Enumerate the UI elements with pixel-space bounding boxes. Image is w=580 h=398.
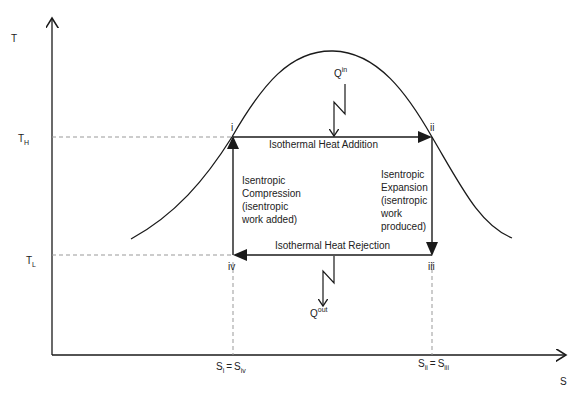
svg-text:(isentropic: (isentropic	[381, 195, 427, 206]
svg-text:Isentropic: Isentropic	[242, 175, 285, 186]
state-i-label: i	[231, 122, 233, 133]
q-in-label: Qin	[334, 66, 347, 79]
q-out-label: Qout	[310, 306, 328, 319]
svg-text:Expansion: Expansion	[381, 182, 428, 193]
state-iv-label: iv	[228, 261, 235, 272]
x-axis-label: S	[560, 376, 567, 387]
svg-text:produced): produced)	[381, 221, 426, 232]
process-left-label: Isentropic Compression (isentropic work …	[241, 175, 301, 225]
arrow-ii-to-iii-icon	[426, 242, 438, 256]
svg-text:work: work	[380, 208, 403, 219]
svg-text:(isentropic: (isentropic	[242, 201, 288, 212]
svg-text:work added): work added)	[241, 214, 297, 225]
svg-text:Compression: Compression	[242, 188, 301, 199]
t-low-label: TL	[26, 255, 36, 268]
s-right-label: Sii=Siii	[418, 358, 449, 371]
state-iii-label: iii	[428, 261, 435, 272]
process-bottom-label: Isothermal Heat Rejection	[275, 240, 390, 251]
y-axis-label: T	[11, 33, 17, 44]
s-left-label: Si=Siv	[216, 361, 246, 374]
q-in-arrow	[334, 84, 345, 136]
state-ii-label: ii	[430, 122, 434, 133]
q-out-arrow	[323, 256, 334, 306]
process-top-label: Isothermal Heat Addition	[269, 139, 378, 150]
t-high-label: TH	[18, 133, 29, 146]
svg-text:Isentropic: Isentropic	[381, 169, 424, 180]
ts-diagram: T S TH TL Si=Siv Sii=Siii i ii iii iv Qi…	[0, 0, 580, 398]
process-right-label: Isentropic Expansion (isentropic work pr…	[380, 169, 428, 232]
arrow-iii-to-iv-icon	[233, 249, 247, 261]
